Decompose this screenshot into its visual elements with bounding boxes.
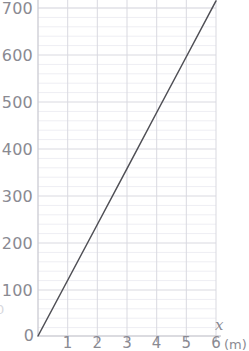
x-tick-label-1: 1	[58, 336, 78, 351]
x-axis-unit-label: (m)	[224, 338, 247, 351]
x-axis-name-label: x	[215, 318, 223, 333]
chart-container: 700 600 500 400 300 200 100 0 0 1 2 3 4 …	[0, 0, 249, 351]
y-tick-label-300: 300	[0, 189, 33, 205]
clipped-edge-mark: 0	[0, 303, 4, 316]
y-tick-label-700: 700	[0, 1, 33, 17]
origin-label: 0	[22, 328, 34, 344]
y-tick-label-200: 200	[0, 236, 33, 252]
x-tick-label-5: 5	[176, 336, 196, 351]
y-tick-label-500: 500	[0, 95, 33, 111]
y-tick-label-100: 100	[0, 283, 33, 299]
x-tick-label-3: 3	[117, 336, 137, 351]
x-tick-label-2: 2	[87, 336, 107, 351]
y-tick-label-600: 600	[0, 48, 33, 64]
plot-area	[0, 0, 249, 351]
x-tick-label-6: 6	[206, 336, 226, 351]
x-tick-label-4: 4	[147, 336, 167, 351]
y-tick-label-400: 400	[0, 142, 33, 158]
